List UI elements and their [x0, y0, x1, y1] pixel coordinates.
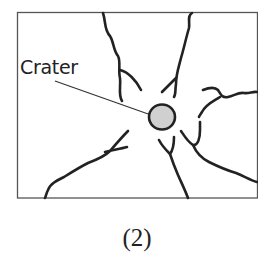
- crater-label: Crater: [20, 56, 78, 78]
- crack-upper-center: [174, 13, 192, 97]
- crack-upper-left-branch: [120, 70, 141, 90]
- crack-upper-left: [103, 13, 122, 101]
- crack-bottom-center-branch: [170, 137, 174, 154]
- crack-upper-center-branch: [162, 78, 176, 92]
- crack-right-lower-long: [193, 145, 257, 182]
- crater-fracture-diagram: [0, 0, 258, 254]
- crack-lower-left: [45, 131, 128, 198]
- crack-right-lower: [181, 122, 200, 145]
- figure-caption: (2): [0, 224, 258, 252]
- diagram-frame: [18, 13, 258, 199]
- crack-lower-left-branch: [105, 147, 127, 152]
- crater-shape: [149, 105, 175, 130]
- leader-line: [55, 81, 151, 115]
- crack-right-upper: [203, 88, 257, 98]
- crack-right-upper-down: [199, 97, 220, 117]
